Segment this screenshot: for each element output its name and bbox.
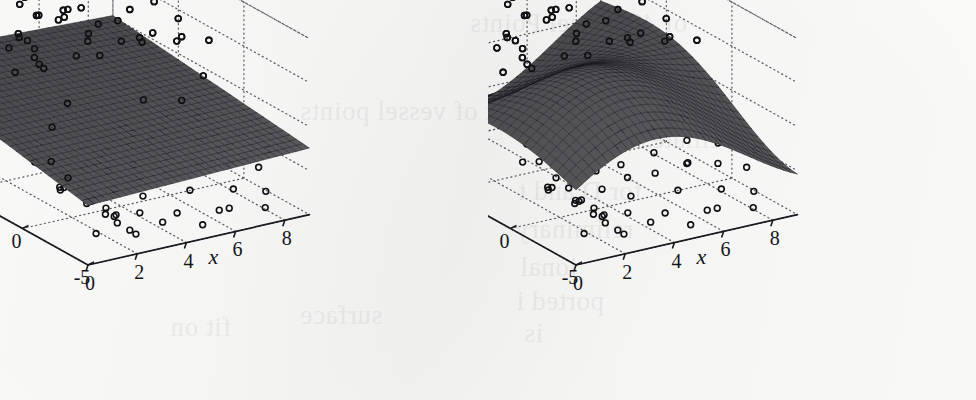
scatter-marker [704, 207, 710, 213]
scatter-marker [151, 0, 157, 5]
scatter-marker [504, 35, 510, 41]
scatter-marker [566, 185, 572, 191]
scatter-marker [127, 7, 133, 13]
y-tick-label: 0 [12, 230, 22, 252]
x-axis-line [576, 215, 797, 265]
scatter-marker [56, 17, 62, 23]
x-axis-label: x [208, 244, 219, 269]
x-tick-label: 6 [721, 238, 731, 260]
surface-mesh [488, 1, 797, 190]
x-tick-label: 0 [85, 272, 95, 294]
scatter-marker [714, 205, 720, 211]
scatter-marker [618, 162, 624, 168]
scatter-marker [114, 220, 120, 226]
scatter-marker [602, 220, 608, 226]
scatter-marker [226, 205, 232, 211]
scatter-marker [652, 170, 658, 176]
scatter-marker [615, 227, 621, 233]
scatter-marker [639, 0, 645, 5]
scatter-marker [103, 211, 109, 217]
y-tick-label: 0 [500, 230, 510, 252]
scatter-marker [494, 45, 500, 51]
scatter-marker [549, 14, 555, 20]
scatter-marker [581, 231, 587, 237]
scatter-marker [505, 1, 511, 7]
scatter-marker [715, 161, 721, 167]
scatter-marker [520, 159, 526, 165]
scatter-marker [137, 210, 143, 216]
scatter-marker [127, 227, 133, 233]
scatter-marker [513, 38, 519, 44]
scatter-marker [625, 175, 631, 181]
gridline-z [113, 0, 310, 39]
scatter-marker [662, 210, 668, 216]
scatter-marker [651, 150, 657, 156]
x-tick-label: 2 [622, 261, 632, 283]
plot-right: 10.50-0.5-11050-502468zyx [488, 0, 976, 400]
scatter-marker [206, 37, 212, 43]
x-axis-line [88, 215, 309, 265]
scatter-marker [140, 193, 146, 199]
scatter-marker [200, 222, 206, 228]
scatter-marker [751, 188, 757, 194]
gridline-y-floor [511, 178, 732, 228]
x-tick-label: 2 [134, 261, 144, 283]
scatter-marker [133, 231, 139, 237]
scatter-marker [93, 231, 99, 237]
scatter-marker [553, 175, 559, 181]
scatter-marker [566, 5, 572, 11]
scatter-marker [500, 69, 506, 75]
x-tick-label: 4 [671, 250, 681, 272]
scatter-marker [520, 46, 526, 52]
scatter-marker [179, 34, 185, 40]
scatter-marker [263, 188, 269, 194]
scatter-marker [174, 210, 180, 216]
x-tick-label: 4 [183, 250, 193, 272]
plot-left: 10.50-0.5-11050-502468zyx [0, 0, 488, 400]
x-tick-label: 0 [573, 272, 583, 294]
scatter-marker [544, 17, 550, 23]
scatter-marker [150, 30, 156, 36]
scatter-marker [744, 164, 750, 170]
scatter-marker [536, 159, 542, 165]
two-panel-3d-figure: 10.50-0.5-11050-502468zyx 10.50-0.5-1105… [0, 0, 976, 400]
scatter-marker [688, 222, 694, 228]
x-tick-label: 8 [282, 227, 292, 249]
scatter-marker [78, 5, 84, 11]
scatter-marker [628, 193, 634, 199]
scatter-marker [599, 186, 605, 192]
scatter-marker [256, 164, 262, 170]
plot-panel-right: 10.50-0.5-11050-502468zyx [488, 0, 976, 400]
scatter-marker [61, 14, 67, 20]
scatter-marker [694, 37, 700, 43]
scatter-marker [519, 55, 525, 61]
scatter-marker [625, 210, 631, 216]
x-tick-label: 8 [770, 227, 780, 249]
x-tick-label: 6 [233, 238, 243, 260]
scatter-marker [216, 207, 222, 213]
x-axis-label: x [696, 244, 707, 269]
scatter-marker [648, 219, 654, 225]
scatter-marker [160, 219, 166, 225]
scatter-marker [621, 231, 627, 237]
scatter-marker [591, 211, 597, 217]
scatter-marker [684, 137, 690, 143]
surface-mesh [0, 16, 309, 206]
plot-panel-left: 10.50-0.5-11050-502468zyx [0, 0, 488, 400]
scatter-marker [17, 1, 23, 7]
